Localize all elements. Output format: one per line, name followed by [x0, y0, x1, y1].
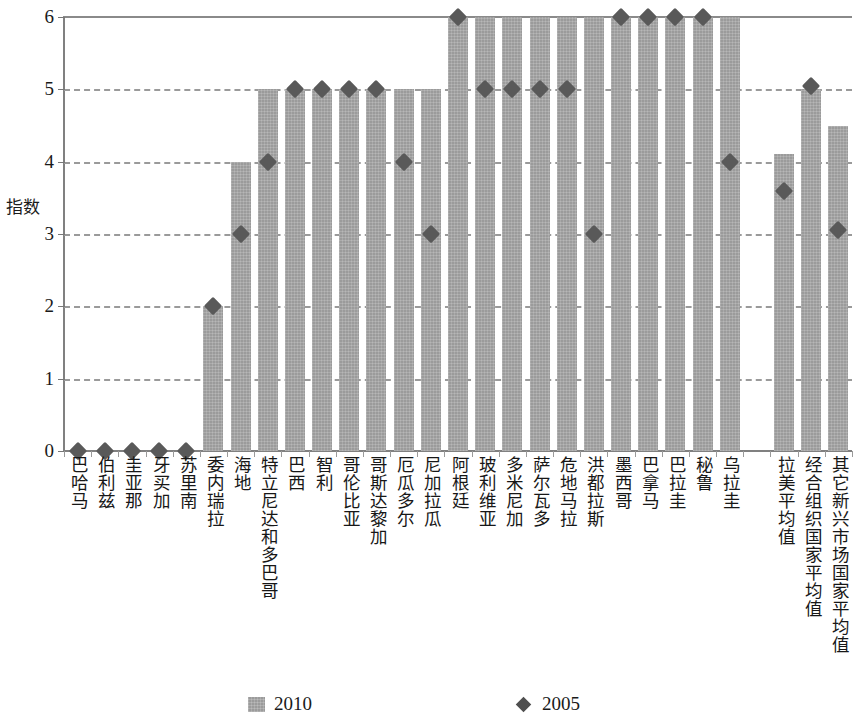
x-tick-mark [309, 451, 310, 457]
x-axis-label: 巴拉圭 [665, 456, 685, 510]
x-axis-label: 秘鲁 [693, 456, 713, 492]
x-axis-label: 圭亚那 [122, 456, 142, 510]
x-tick-mark [825, 451, 826, 457]
y-tick-label-1: 1 [28, 369, 54, 388]
bar [258, 89, 278, 451]
x-axis-label: 乌拉圭 [720, 456, 740, 510]
x-axis-label: 巴西 [285, 456, 305, 492]
x-axis-label: 其它新兴市场国家平均值 [828, 456, 848, 654]
x-axis-label: 苏里南 [176, 456, 196, 510]
x-tick-mark [580, 451, 581, 457]
bar [231, 162, 251, 451]
x-axis-label: 拉美平均值 [774, 456, 794, 546]
x-axis-label: 特立尼达和多巴哥 [258, 456, 278, 600]
bar [720, 17, 740, 451]
y-axis-title: 指数 [6, 198, 40, 217]
x-tick-mark [227, 451, 228, 457]
x-tick-mark [173, 451, 174, 457]
x-tick-mark [770, 451, 771, 457]
x-tick-mark [743, 451, 744, 457]
chart-legend: 2010 2005 [0, 690, 854, 720]
x-tick-mark [607, 451, 608, 457]
legend-label-2010: 2010 [274, 693, 312, 715]
x-tick-mark [689, 451, 690, 457]
x-axis-label: 委内瑞拉 [203, 456, 223, 528]
bar [828, 126, 848, 452]
x-axis-label: 多米尼加 [502, 456, 522, 528]
x-axis-label: 阿根廷 [448, 456, 468, 510]
bar [693, 17, 713, 451]
x-axis-label: 洪都拉斯 [584, 456, 604, 528]
x-axis-label: 牙买加 [149, 456, 169, 510]
x-axis-label: 经合组织国家平均值 [801, 456, 821, 618]
x-tick-mark [254, 451, 255, 457]
bar [366, 89, 386, 451]
x-axis-label: 厄瓜多尔 [394, 456, 414, 528]
y-tick-label-3: 3 [28, 224, 54, 243]
x-tick-mark [526, 451, 527, 457]
x-tick-mark [146, 451, 147, 457]
x-axis-label: 巴哈马 [68, 456, 88, 510]
x-tick-mark [118, 451, 119, 457]
y-tick-label-4: 4 [28, 152, 54, 171]
legend-label-2005: 2005 [542, 693, 580, 715]
x-tick-mark [852, 451, 853, 457]
x-axis-label: 巴拿马 [638, 456, 658, 510]
x-axis-label: 墨西哥 [611, 456, 631, 510]
x-tick-mark [417, 451, 418, 457]
bar [801, 89, 821, 451]
bar [638, 17, 658, 451]
y-tick-label-0: 0 [28, 441, 54, 460]
x-tick-mark [635, 451, 636, 457]
x-tick-mark [281, 451, 282, 457]
bar [448, 17, 468, 451]
bar [203, 306, 223, 451]
x-axis-label: 哥斯达黎加 [366, 456, 386, 546]
y-tick-label-5: 5 [28, 79, 54, 98]
bar [285, 89, 305, 451]
x-tick-mark [499, 451, 500, 457]
x-axis-label: 危地马拉 [557, 456, 577, 528]
bar [421, 89, 441, 451]
legend-entry-2010[interactable]: 2010 [248, 693, 312, 715]
x-tick-mark [716, 451, 717, 457]
x-tick-mark [390, 451, 391, 457]
bar [312, 89, 332, 451]
x-tick-mark [444, 451, 445, 457]
x-axis-label: 尼加拉瓜 [421, 456, 441, 528]
bar [339, 89, 359, 451]
x-tick-mark [553, 451, 554, 457]
x-axis-label: 哥伦比亚 [339, 456, 359, 528]
x-axis-label: 玻利维亚 [475, 456, 495, 528]
x-tick-mark [798, 451, 799, 457]
x-tick-mark [336, 451, 337, 457]
plot-area [64, 17, 852, 451]
chart-container: 指数 0123456 巴哈马伯利兹圭亚那牙买加苏里南委内瑞拉海地特立尼达和多巴哥… [0, 0, 854, 720]
x-tick-mark [64, 451, 65, 457]
x-tick-mark [472, 451, 473, 457]
bar [611, 17, 631, 451]
bar [665, 17, 685, 451]
legend-entry-2005[interactable]: 2005 [516, 693, 580, 715]
legend-diamond-swatch-icon [516, 696, 532, 712]
bar [394, 89, 414, 451]
x-tick-mark [363, 451, 364, 457]
y-tick-label-2: 2 [28, 296, 54, 315]
x-axis-label: 伯利兹 [95, 456, 115, 510]
legend-bar-swatch-icon [248, 697, 265, 712]
x-axis-label: 萨尔瓦多 [530, 456, 550, 528]
x-axis-label: 海地 [231, 456, 251, 492]
x-tick-mark [200, 451, 201, 457]
x-tick-mark [91, 451, 92, 457]
y-tick-label-6: 6 [28, 7, 54, 26]
x-tick-mark [662, 451, 663, 457]
x-axis-label: 智利 [312, 456, 332, 492]
